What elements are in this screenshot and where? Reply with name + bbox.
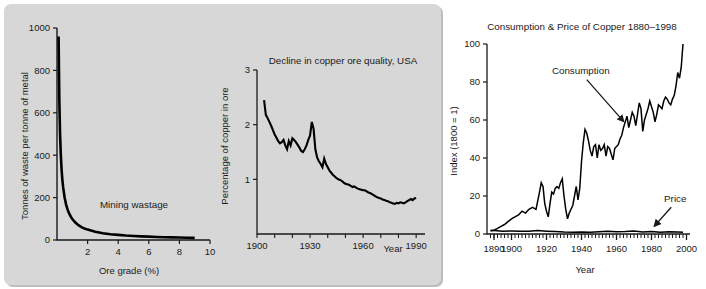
chart-copper-ore-quality: 1231900193019601990 Percentage of copper… <box>215 6 440 284</box>
y-tick-label: 3 <box>245 64 250 75</box>
y-tick-label: 600 <box>34 107 50 118</box>
y-tick-label: 100 <box>464 38 480 49</box>
x-tick-label: 6 <box>146 246 151 257</box>
series-line-ore-grade <box>264 100 416 204</box>
x-tick-label: 1960 <box>606 243 627 254</box>
x-tick-label: 8 <box>177 246 182 257</box>
y-axis-label: Percentage of copper in ore <box>219 87 230 204</box>
y-tick-label: 0 <box>475 228 480 239</box>
y-tick-label: 400 <box>34 150 50 161</box>
copper-ore-quality-svg: 1231900193019601990 Percentage of copper… <box>215 6 440 284</box>
x-tick-label: 1930 <box>299 240 320 251</box>
annotation-arrow-price <box>654 207 671 226</box>
chart-title: Consumption & Price of Copper 1880–1998 <box>487 21 677 32</box>
x-tick-label: 1980 <box>641 243 662 254</box>
x-tick-label: 4 <box>116 246 121 257</box>
x-tick-label: 2000 <box>676 243 697 254</box>
y-tick-label: 2 <box>245 119 250 130</box>
y-tick-label: 20 <box>469 190 480 201</box>
figure-page: 02004006008001000246810 Tonnes of waste … <box>0 0 706 289</box>
chart-title: Decline in copper ore quality, USA <box>269 55 418 66</box>
y-axis-label: Tonnes of waste per tonne of metal <box>19 72 30 220</box>
annotation-label-consumption: Consumption <box>552 65 610 76</box>
x-axis-label: Year <box>575 264 594 275</box>
x-tick-label: 1900 <box>246 240 267 251</box>
y-axis-label: Index (1800 = 1) <box>448 106 459 175</box>
x-tick-label: 1900 <box>501 243 522 254</box>
x-axis-label: Year <box>383 243 402 254</box>
x-tick-label: 2 <box>85 246 90 257</box>
axes-group <box>253 70 425 238</box>
y-tick-label: 60 <box>469 114 480 125</box>
y-tick-label: 1 <box>245 174 250 185</box>
x-axis-label: Ore grade (%) <box>99 265 159 276</box>
mining-wastage-svg: 02004006008001000246810 Tonnes of waste … <box>14 6 224 284</box>
x-tick-label: 10 <box>205 246 216 257</box>
y-tick-label: 40 <box>469 152 480 163</box>
annotation-label-price: Price <box>664 193 687 204</box>
y-tick-label: 200 <box>34 192 50 203</box>
annotation-group: ConsumptionPrice <box>552 65 687 227</box>
x-tick-label: 1960 <box>353 240 374 251</box>
axes-group <box>53 28 210 244</box>
series-line-price <box>491 230 684 232</box>
x-tick-label: 1990 <box>406 240 427 251</box>
y-tick-label: 80 <box>469 76 480 87</box>
x-tick-label: 1920 <box>536 243 557 254</box>
chart-mining-wastage: 02004006008001000246810 Tonnes of waste … <box>14 6 224 284</box>
y-tick-label: 800 <box>34 65 50 76</box>
annotation-arrow-consumption <box>587 80 624 122</box>
y-tick-label: 0 <box>45 234 50 245</box>
x-tick-label: 1940 <box>571 243 592 254</box>
y-tick-label: 1000 <box>29 22 50 33</box>
chart-title: Mining wastage <box>100 199 169 210</box>
chart-consumption-price-copper: 0204060801001890190019201940196019802000… <box>440 6 706 284</box>
tick-label-group: 1231900193019601990 <box>245 64 427 251</box>
consumption-price-svg: 0204060801001890190019201940196019802000… <box>440 6 706 284</box>
